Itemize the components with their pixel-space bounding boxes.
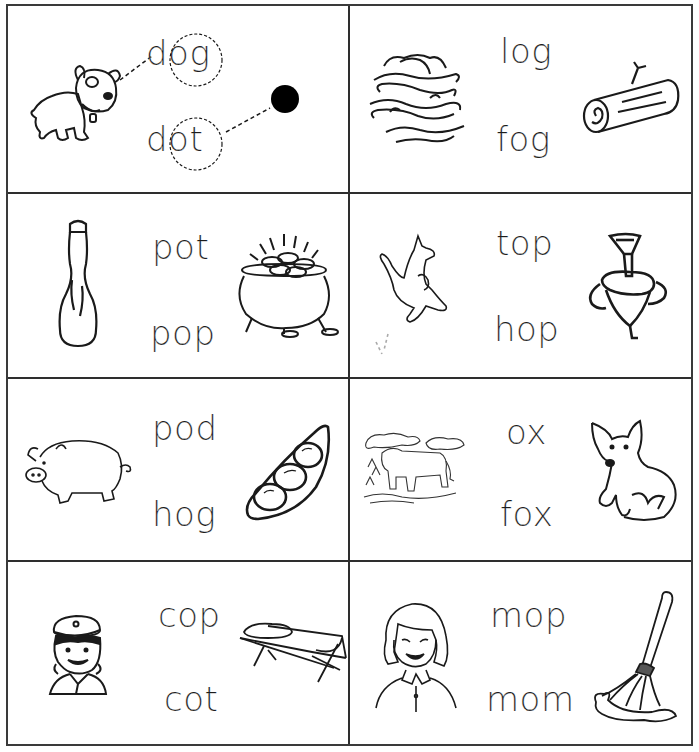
spinning-top-picture-icon	[584, 232, 680, 340]
mop-picture-icon	[592, 590, 678, 724]
word-ox: ox	[506, 415, 547, 449]
cell-pot-pop: pot pop	[8, 194, 348, 377]
cell-example-dog-dot: dog dot	[8, 6, 348, 192]
word-mom: mom	[486, 682, 575, 716]
hopping-kangaroo-picture-icon	[374, 230, 454, 360]
cot-picture-icon	[238, 622, 348, 692]
cell-top-hop: top hop	[350, 194, 695, 377]
log-picture-icon	[582, 62, 682, 136]
word-fog: fog	[496, 122, 551, 156]
cell-pod-hog: pod hog	[8, 379, 348, 560]
word-top: top	[496, 226, 553, 260]
fox-picture-icon	[588, 419, 682, 523]
dot-picture-icon	[270, 84, 302, 116]
ox-picture-icon	[362, 431, 468, 507]
word-pot: pot	[152, 230, 209, 264]
dashed-circle-icon	[168, 116, 228, 176]
word-pod: pod	[152, 411, 217, 445]
cop-picture-icon	[48, 614, 112, 698]
hog-picture-icon	[22, 437, 134, 507]
dashed-circle-icon	[168, 32, 228, 92]
cell-mop-mom: mop mom	[350, 562, 695, 744]
cell-cop-cot: cop cot	[8, 562, 348, 744]
worksheet-grid: dog dot	[6, 4, 693, 746]
word-cot: cot	[164, 682, 218, 716]
word-hop: hop	[494, 312, 559, 346]
cell-ox-fox: ox fox	[350, 379, 695, 560]
word-cop: cop	[158, 598, 221, 632]
word-fox: fox	[500, 497, 553, 531]
fog-picture-icon	[370, 52, 466, 146]
cell-log-fog: log fog	[350, 6, 695, 192]
pot-of-gold-picture-icon	[234, 234, 344, 340]
dog-picture-icon	[26, 58, 126, 148]
word-pop: pop	[150, 316, 215, 350]
word-hog: hog	[152, 497, 216, 531]
word-log: log	[500, 34, 552, 68]
mom-picture-icon	[372, 600, 460, 716]
pea-pod-picture-icon	[244, 419, 334, 523]
connector-line-icon	[226, 98, 276, 138]
pop-bottle-picture-icon	[56, 220, 100, 350]
word-mop: mop	[490, 598, 567, 632]
